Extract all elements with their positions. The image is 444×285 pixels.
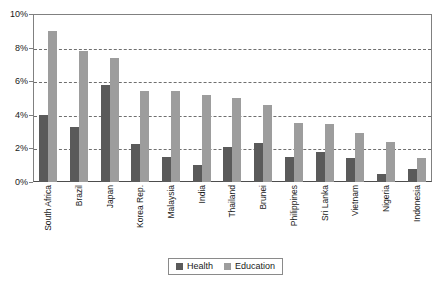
y-tick-label: 6% xyxy=(15,77,28,86)
y-tick-label: 2% xyxy=(15,144,28,153)
x-label-slot: Korea Rep. xyxy=(125,185,156,247)
x-label-slot: Brazil xyxy=(64,185,95,247)
x-tick-label: Sri Lanka xyxy=(320,185,329,221)
x-label-slot: Brunei xyxy=(248,185,279,247)
legend-swatch-health xyxy=(176,263,183,270)
gridline xyxy=(34,116,431,117)
x-tick-label: Indonesia xyxy=(412,185,421,222)
x-label-slot: Malaysia xyxy=(156,185,187,247)
x-tick-label: India xyxy=(197,185,206,203)
gridline xyxy=(34,149,431,150)
y-axis: 0%2%4%6%8%10% xyxy=(0,0,33,196)
x-tick-label: Malaysia xyxy=(167,185,176,219)
legend-label: Education xyxy=(235,262,275,271)
x-label-slot: Nigeria xyxy=(371,185,402,247)
y-tick-label: 0% xyxy=(15,178,28,187)
x-tick-label: Brunei xyxy=(259,185,268,210)
y-tick-label: 10% xyxy=(10,10,28,19)
x-tick-label: Vietnam xyxy=(351,185,360,216)
y-tick-label: 4% xyxy=(15,110,28,119)
bar-chart: 0%2%4%6%8%10% South AfricaBrazilJapanKor… xyxy=(0,0,444,285)
x-tick-label: Philippines xyxy=(289,185,298,226)
x-label-slot: Vietnam xyxy=(340,185,371,247)
gridline xyxy=(34,82,431,83)
x-label-slot: Sri Lanka xyxy=(309,185,340,247)
x-tick-label: Japan xyxy=(105,185,114,208)
x-label-slot: Japan xyxy=(94,185,125,247)
x-tick-label: Brazil xyxy=(75,185,84,206)
x-label-slot: Philippines xyxy=(279,185,310,247)
x-label-slot: South Africa xyxy=(33,185,64,247)
x-axis-labels: South AfricaBrazilJapanKorea Rep.Malaysi… xyxy=(33,183,432,247)
chart-legend: HealthEducation xyxy=(168,258,283,275)
gridline xyxy=(34,49,431,50)
x-label-slot: Thailand xyxy=(217,185,248,247)
legend-entry: Health xyxy=(176,262,213,271)
x-label-slot: India xyxy=(186,185,217,247)
legend-entry: Education xyxy=(224,262,275,271)
y-tick-label: 8% xyxy=(15,43,28,52)
x-tick-label: South Africa xyxy=(44,185,53,231)
plot-area xyxy=(33,14,432,182)
x-tick-label: Korea Rep. xyxy=(136,185,145,228)
x-tick-label: Thailand xyxy=(228,185,237,218)
x-tick-label: Nigeria xyxy=(381,185,390,212)
x-label-slot: Indonesia xyxy=(401,185,432,247)
gridlines xyxy=(34,15,431,181)
legend-label: Health xyxy=(187,262,213,271)
legend-swatch-education xyxy=(224,263,231,270)
